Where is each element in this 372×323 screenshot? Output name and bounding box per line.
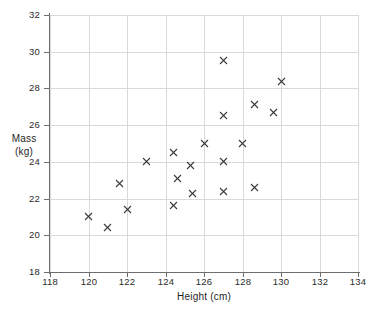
y-axis-tick bbox=[44, 125, 50, 126]
gridline-vertical bbox=[166, 15, 167, 272]
gridline-horizontal bbox=[50, 235, 358, 236]
y-axis-tick-label: 30 bbox=[12, 47, 40, 57]
gridline-horizontal bbox=[50, 199, 358, 200]
gridline-vertical bbox=[243, 15, 244, 272]
gridline-vertical bbox=[204, 15, 205, 272]
y-axis-tick bbox=[44, 235, 50, 236]
gridline-horizontal bbox=[50, 88, 358, 89]
y-axis-tick-label: 18 bbox=[12, 267, 40, 277]
y-axis-tick-label: 32 bbox=[12, 10, 40, 20]
x-axis-tick-label: 122 bbox=[107, 277, 147, 287]
y-axis-tick-label: 20 bbox=[12, 230, 40, 240]
x-axis-tick-label: 130 bbox=[261, 277, 301, 287]
y-axis-tick-label: 24 bbox=[12, 157, 40, 167]
y-axis-tick bbox=[44, 162, 50, 163]
gridline-vertical bbox=[358, 15, 359, 272]
gridline-horizontal bbox=[50, 15, 358, 16]
x-axis-tick-label: 132 bbox=[300, 277, 340, 287]
x-axis-tick-label: 120 bbox=[69, 277, 109, 287]
gridline-horizontal bbox=[50, 52, 358, 53]
x-axis-tick-label: 124 bbox=[146, 277, 186, 287]
y-axis-tick-label: 26 bbox=[12, 120, 40, 130]
x-axis-tick-label: 118 bbox=[30, 277, 70, 287]
x-axis-title: Height (cm) bbox=[50, 291, 358, 302]
gridline-vertical bbox=[281, 15, 282, 272]
y-axis-title: Mass (kg) bbox=[2, 133, 46, 158]
x-axis-tick-label: 128 bbox=[223, 277, 263, 287]
gridline-horizontal bbox=[50, 162, 358, 163]
gridline-vertical bbox=[89, 15, 90, 272]
y-axis-tick-label: 28 bbox=[12, 83, 40, 93]
gridline-vertical bbox=[127, 15, 128, 272]
y-axis-title-line1: Mass bbox=[2, 133, 46, 146]
y-axis-tick bbox=[44, 15, 50, 16]
y-axis-tick bbox=[44, 88, 50, 89]
y-axis-tick-label: 22 bbox=[12, 194, 40, 204]
gridline-vertical bbox=[320, 15, 321, 272]
gridline-vertical bbox=[50, 15, 51, 272]
gridline-horizontal bbox=[50, 125, 358, 126]
x-axis-tick-label: 134 bbox=[338, 277, 372, 287]
y-axis-tick bbox=[44, 199, 50, 200]
scatter-chart: Mass (kg) Height (cm) 182022242628303211… bbox=[0, 0, 372, 323]
x-axis-tick-label: 126 bbox=[184, 277, 224, 287]
plot-area bbox=[50, 15, 358, 272]
y-axis-tick bbox=[44, 52, 50, 53]
